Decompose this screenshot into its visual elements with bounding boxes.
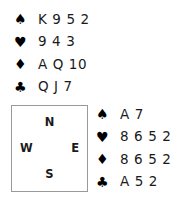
heart-icon: ♥ bbox=[14, 35, 38, 49]
hand-row-diamonds: ♦ A Q 10 bbox=[14, 53, 114, 76]
diamond-icon: ♦ bbox=[96, 152, 120, 166]
compass-west-label: W bbox=[20, 143, 33, 155]
compass-box: N W E S bbox=[11, 105, 88, 192]
hand-row-hearts: ♥ 8 6 5 2 bbox=[96, 126, 182, 149]
hand-row-spades: ♠ A 7 bbox=[96, 103, 182, 126]
hand-row-hearts: ♥ 9 4 3 bbox=[14, 31, 114, 54]
heart-icon: ♥ bbox=[96, 130, 120, 144]
heart-cards: 8 6 5 2 bbox=[120, 130, 171, 144]
club-cards: A 5 2 bbox=[120, 175, 158, 189]
hand-row-clubs: ♣ Q J 7 bbox=[14, 76, 114, 99]
diamond-icon: ♦ bbox=[14, 57, 38, 71]
heart-cards: 9 4 3 bbox=[38, 35, 75, 49]
spade-icon: ♠ bbox=[14, 12, 38, 26]
hand-row-clubs: ♣ A 5 2 bbox=[96, 171, 182, 194]
diamond-cards: 8 6 5 2 bbox=[120, 153, 171, 167]
spade-icon: ♠ bbox=[96, 107, 120, 121]
club-icon: ♣ bbox=[14, 80, 38, 94]
compass-north-label: N bbox=[12, 117, 87, 129]
compass-east-label: E bbox=[71, 143, 79, 155]
hand-row-diamonds: ♦ 8 6 5 2 bbox=[96, 148, 182, 171]
spade-cards: K 9 5 2 bbox=[38, 13, 90, 27]
club-cards: Q J 7 bbox=[38, 80, 73, 94]
compass-south-label: S bbox=[12, 169, 87, 181]
hand-row-spades: ♠ K 9 5 2 bbox=[14, 8, 114, 31]
club-icon: ♣ bbox=[96, 175, 120, 189]
north-hand: ♠ K 9 5 2 ♥ 9 4 3 ♦ A Q 10 ♣ Q J 7 bbox=[14, 8, 114, 98]
diamond-cards: A Q 10 bbox=[38, 58, 87, 72]
spade-cards: A 7 bbox=[120, 108, 144, 122]
east-hand: ♠ A 7 ♥ 8 6 5 2 ♦ 8 6 5 2 ♣ A 5 2 bbox=[96, 103, 182, 193]
